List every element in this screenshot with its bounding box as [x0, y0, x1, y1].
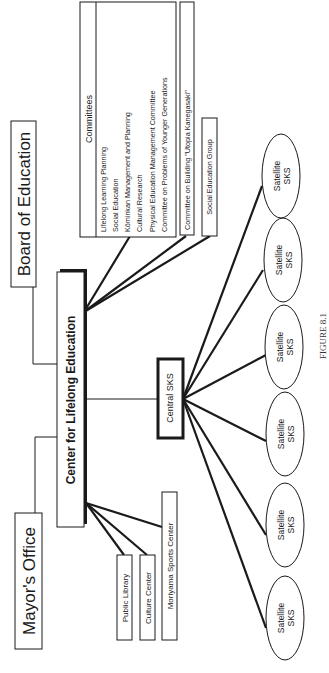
committees-node: Committees Lifelong Learning Planning So…: [80, 2, 176, 237]
center-to-committees-line: [84, 236, 130, 312]
satellite-label-line2: SKS: [285, 338, 295, 355]
central-sks-node: Central SKS: [158, 359, 183, 438]
satellite-sks-node: Satellite SKS: [264, 218, 302, 302]
committee-item: Physical Education Management Committee: [148, 91, 157, 232]
satellite-sks-node: Satellite SKS: [262, 134, 300, 218]
satellite-sks-node: Satellite SKS: [266, 392, 304, 476]
satellite-label-line2: SKS: [284, 251, 294, 268]
board-to-center-line: [33, 287, 57, 364]
satellite-label-line2: SKS: [286, 425, 296, 442]
board-of-education-node: Board of Education: [11, 121, 36, 287]
building-committee-label: Committee on Building "Utopia Kanegasaki…: [183, 90, 192, 230]
committee-item: Lifelong Learning Planning: [99, 147, 108, 232]
mayor-label: Mayor's Office: [20, 527, 39, 635]
center-to-sports-line: [86, 503, 162, 527]
satellite-label-line1: Satellite: [276, 510, 286, 541]
mayor-to-center-line: [35, 437, 57, 513]
committee-item: Committee on Problems of Younger Generat…: [160, 77, 169, 232]
center-to-library-line: [86, 503, 124, 555]
center-to-culture-line: [86, 503, 147, 555]
social-group-label: Social Education Group: [205, 139, 214, 215]
satellite-label-line2: SKS: [282, 167, 292, 184]
satellite-label-line1: Satellite: [276, 419, 286, 450]
central-sks-label: Central SKS: [165, 373, 175, 423]
thin-connectors: [33, 287, 157, 513]
board-label: Board of Education: [15, 132, 34, 277]
mayors-office-node: Mayor's Office: [15, 513, 42, 649]
satellite-label-line1: Satellite: [276, 603, 286, 634]
satellite-sks-node: Satellite SKS: [265, 305, 303, 389]
building-committee-node: Committee on Building "Utopia Kanegasaki…: [180, 2, 194, 235]
sports-center-label: Moriyama Sports Center: [166, 522, 175, 609]
figure-caption: FIGURE 8.1: [318, 313, 328, 359]
satellite-label-line1: Satellite: [272, 161, 282, 192]
center-to-building-line: [84, 236, 186, 312]
committee-item: Social Education: [111, 178, 120, 232]
satellite-label-line1: Satellite: [274, 245, 284, 276]
satellite-label-line2: SKS: [286, 609, 296, 626]
org-chart: Board of Education Mayor's Office Center…: [0, 0, 329, 673]
center-lifelong-education-node: Center for Lifelong Education: [57, 269, 87, 527]
public-library-node: Public Library: [117, 555, 132, 640]
committee-item: Cultural Research: [135, 174, 144, 232]
center-to-social-group-line: [84, 236, 210, 312]
public-library-label: Public Library: [121, 574, 130, 622]
satellite-label-line1: Satellite: [275, 332, 285, 363]
culture-center-label: Culture Center: [144, 572, 153, 624]
social-education-group-node: Social Education Group: [202, 118, 217, 236]
satellite-sks-node: Satellite SKS: [266, 576, 304, 660]
culture-center-node: Culture Center: [140, 555, 155, 640]
satellite-label-line2: SKS: [286, 516, 296, 533]
committees-title: Committees: [84, 94, 94, 143]
committee-item: Kōminkan Management and Planning: [123, 112, 132, 232]
center-label: Center for Lifelong Education: [64, 316, 78, 485]
moriyama-sports-center-node: Moriyama Sports Center: [162, 492, 177, 640]
satellite-sks-node: Satellite SKS: [266, 483, 304, 567]
